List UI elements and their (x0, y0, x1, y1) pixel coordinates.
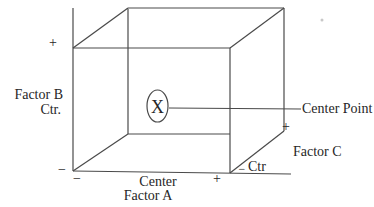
factor-a-label: Factor A (124, 188, 173, 203)
factor-b-center-label: Ctr. (40, 102, 61, 117)
bottom-left-depth-edge (73, 134, 128, 171)
factor-a-high-sign: + (213, 171, 221, 186)
center-point-callout-line (169, 108, 301, 109)
doe-cube-figure: X Center Point + Factor B Ctr. − − Cente… (0, 0, 374, 207)
factor-c-label: Factor C (293, 144, 342, 159)
factor-b-low-sign: − (58, 162, 66, 177)
center-point-symbol: X (151, 97, 164, 117)
factor-b-label: Factor B (14, 87, 63, 102)
factor-c-high-sign: + (282, 119, 290, 134)
factor-c-center-label: Ctr (248, 159, 266, 174)
factor-a-center-label: Center (139, 174, 177, 189)
center-point-label: Center Point (302, 101, 372, 116)
factor-a-low-sign: − (73, 171, 81, 186)
cube-edges (73, 8, 291, 174)
scan-artifact-dot (321, 19, 324, 22)
top-right-depth-edge (230, 8, 284, 48)
cube-diagram-canvas: X Center Point + Factor B Ctr. − − Cente… (0, 0, 374, 207)
factor-b-high-sign: + (49, 35, 57, 50)
top-left-depth-edge (73, 8, 128, 48)
factor-c-low-sign: − (239, 162, 246, 176)
